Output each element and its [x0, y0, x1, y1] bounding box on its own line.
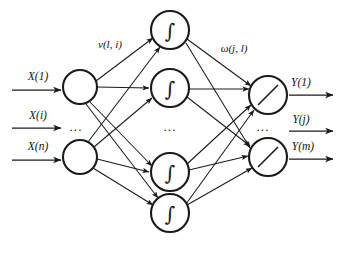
weight-label-omega: ω(j, l) [221, 42, 248, 55]
output-label-y1: Y(1) [291, 76, 311, 89]
edge-inn-hid1 [88, 47, 160, 142]
input-label-xn: X(n) [27, 140, 49, 153]
input-label-x1: X(1) [27, 70, 49, 83]
output-label-yj: Y(j) [292, 113, 309, 126]
edges-hidden-to-output [186, 39, 254, 205]
hidden-ellipsis: ... [163, 119, 176, 134]
edge-in1-hid3 [90, 102, 152, 166]
neural-network-diagram: ∫ ∫ ∫ ∫ ... ... ... X(1) X(i) X(n) [0, 0, 340, 254]
output-ellipsis: ... [256, 119, 269, 134]
integral-icon-1: ∫ [165, 19, 175, 43]
integral-icon-3: ∫ [165, 161, 175, 185]
edge-hid4-outm [187, 168, 252, 205]
input-label-xi: X(i) [28, 109, 47, 122]
input-ellipsis: ... [69, 119, 82, 134]
integral-icon-2: ∫ [165, 77, 175, 101]
input-labels: X(1) X(i) X(n) [27, 70, 49, 153]
weight-label-v: v(l, i) [98, 38, 122, 51]
output-label-ym: Y(m) [292, 140, 315, 153]
edge-inn-hid3 [97, 159, 149, 172]
edge-in1-hid2 [97, 87, 149, 88]
edges-input-to-hidden [86, 38, 160, 205]
integral-icon-4: ∫ [165, 202, 175, 226]
network-canvas: ∫ ∫ ∫ ∫ ... ... ... X(1) X(i) X(n) [0, 0, 340, 254]
edge-hid3-outm [189, 156, 248, 170]
edge-inn-hid4 [93, 168, 153, 205]
output-labels: Y(1) Y(j) Y(m) [291, 76, 314, 153]
input-neuron-1[interactable] [63, 70, 97, 104]
edge-hid2-outm [187, 97, 250, 146]
edge-hid1-outm [186, 43, 250, 148]
input-neuron-n[interactable] [63, 140, 97, 174]
